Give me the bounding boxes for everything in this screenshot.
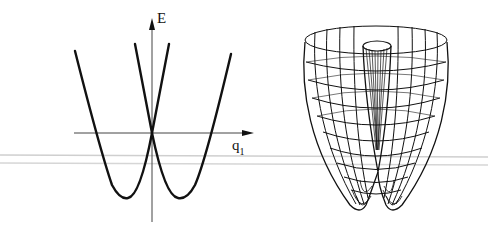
q-label-text: q <box>232 137 240 153</box>
e-axis-label: E <box>157 11 166 26</box>
e-axis-arrow-icon <box>149 18 155 30</box>
left-parabola-curve <box>75 44 169 198</box>
q-subscript: 1 <box>240 146 245 157</box>
q1-axis-arrow-icon <box>242 130 254 136</box>
q1-axis <box>74 130 254 136</box>
wireframe-surface <box>304 26 448 210</box>
e-label-text: E <box>157 10 166 26</box>
q1-axis-label: q1 <box>232 138 245 153</box>
right-parabola-curve <box>135 44 231 198</box>
figure-canvas <box>0 0 488 233</box>
